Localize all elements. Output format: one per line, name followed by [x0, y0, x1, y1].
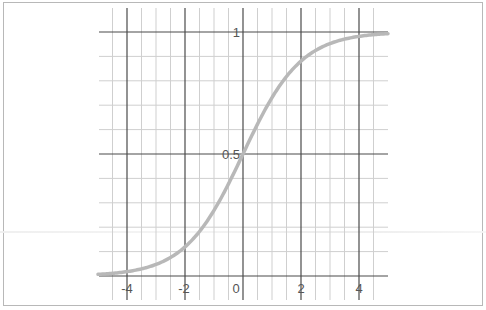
x-tick-label: 4: [355, 281, 362, 296]
y-tick-label-0-5: 0.5: [222, 147, 240, 162]
y-tick-label-1: 1: [233, 25, 240, 40]
x-tick-label: 0: [232, 281, 239, 296]
x-tick-label: 2: [297, 281, 304, 296]
x-tick-label: -4: [121, 281, 133, 296]
x-tick-label: -2: [178, 281, 190, 296]
sigmoid-chart: -4 -2 0 2 4 1 0.5: [0, 0, 486, 310]
tick-labels: -4 -2 0 2 4 1 0.5: [121, 25, 362, 296]
